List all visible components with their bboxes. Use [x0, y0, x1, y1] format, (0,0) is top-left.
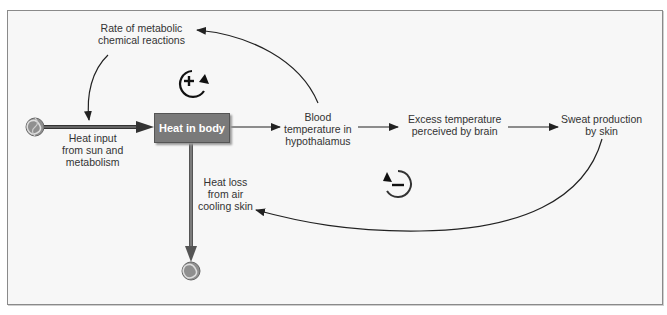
label-line: Blood	[284, 111, 352, 123]
label-blood-temperature: Blood temperature in hypothalamus	[284, 111, 352, 147]
label-excess-temperature: Excess temperature perceived by brain	[408, 113, 501, 137]
heat-in-body-stock: Heat in body	[154, 113, 230, 143]
label-heat-loss: Heat loss from air cooling skin	[198, 176, 253, 212]
label-line: Excess temperature	[408, 113, 501, 125]
label-rate-of-metabolic: Rate of metabolic chemical reactions	[98, 22, 185, 46]
label-line: from air	[198, 188, 253, 200]
reinforcing-loop-icon	[180, 71, 209, 97]
sink-cloud-icon	[182, 262, 200, 280]
arrow-sweat-to-heat-loss	[256, 139, 602, 231]
label-line: by skin	[561, 125, 642, 137]
label-line: chemical reactions	[98, 34, 185, 46]
label-heat-input: Heat input from sun and metabolism	[62, 132, 123, 168]
label-line: Rate of metabolic	[98, 22, 185, 34]
label-line: temperature in	[284, 123, 352, 135]
label-line: hypothalamus	[284, 135, 352, 147]
heat-loss-flow-pipe	[185, 142, 197, 262]
label-line: Sweat production	[561, 113, 642, 125]
source-cloud-icon	[26, 118, 44, 136]
label-line: metabolism	[62, 156, 123, 168]
label-line: Heat input	[62, 132, 123, 144]
arrow-metabolic-to-heat-input	[88, 55, 108, 120]
label-line: cooling skin	[198, 200, 253, 212]
balancing-loop-icon	[383, 171, 411, 197]
label-line: from sun and	[62, 144, 123, 156]
label-line: perceived by brain	[408, 125, 501, 137]
arrow-blood-to-metabolic	[197, 30, 318, 103]
label-sweat-production: Sweat production by skin	[561, 113, 642, 137]
label-line: Heat loss	[198, 176, 253, 188]
